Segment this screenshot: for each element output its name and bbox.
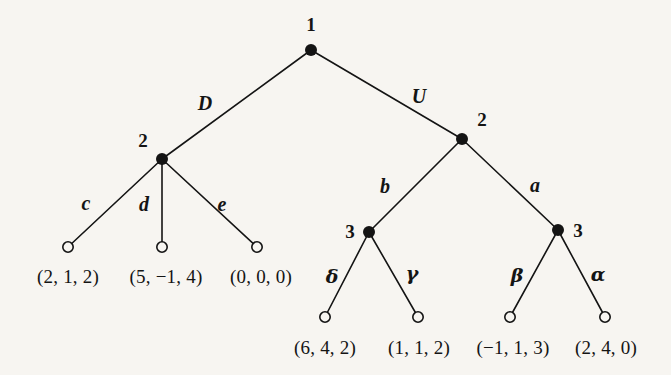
edge-e bbox=[162, 159, 257, 247]
terminal-node bbox=[320, 312, 330, 322]
player-label-left_p3: 3 bbox=[345, 222, 355, 241]
terminal-node bbox=[505, 312, 515, 322]
payoff-t_e: (0, 0, 0) bbox=[230, 267, 292, 286]
edge-c-label: c bbox=[82, 193, 91, 213]
edge-U bbox=[311, 50, 462, 139]
terminal-node bbox=[157, 242, 167, 252]
edge-D-label: D bbox=[198, 93, 212, 113]
edge-b-label: b bbox=[380, 176, 390, 196]
player-label-left_p2: 2 bbox=[138, 131, 148, 150]
decision-node-left_p3 bbox=[363, 226, 375, 238]
player-label-right_p3: 3 bbox=[573, 221, 583, 240]
edge-e-label: e bbox=[218, 194, 227, 214]
edge-alpha-label: α bbox=[591, 265, 606, 284]
edge-D bbox=[162, 50, 311, 159]
terminal-node bbox=[63, 242, 73, 252]
terminal-node bbox=[600, 312, 610, 322]
decision-node-right_p3 bbox=[552, 224, 564, 236]
edge-delta-label: δ bbox=[326, 267, 339, 286]
decision-node-left_p2 bbox=[156, 153, 168, 165]
edge-beta-label: β bbox=[511, 266, 524, 285]
decision-node-root bbox=[305, 44, 317, 56]
payoff-t_delta: (6, 4, 2) bbox=[294, 338, 356, 357]
edge-gamma-label: γ bbox=[406, 264, 419, 283]
payoff-t_gamma: (1, 1, 2) bbox=[388, 338, 450, 357]
player-label-root: 1 bbox=[306, 15, 316, 34]
decision-node-right_p2 bbox=[456, 133, 468, 145]
tree-canvas bbox=[0, 0, 671, 375]
edge-U-label: U bbox=[412, 86, 426, 106]
payoff-t_c: (2, 1, 2) bbox=[37, 267, 99, 286]
payoff-t_alpha: (2, 4, 0) bbox=[575, 338, 637, 357]
edge-d-label: d bbox=[139, 194, 149, 214]
terminal-node bbox=[252, 242, 262, 252]
payoff-t_beta: (−1, 1, 3) bbox=[477, 338, 550, 357]
payoff-t_d: (5, −1, 4) bbox=[130, 267, 203, 286]
edge-a bbox=[462, 139, 558, 230]
game-tree-figure: DUcdebaδγβα(2, 1, 2)(5, −1, 4)(0, 0, 0)(… bbox=[0, 0, 671, 375]
player-label-right_p2: 2 bbox=[477, 110, 487, 129]
edge-a-label: a bbox=[530, 175, 540, 195]
terminal-node bbox=[413, 312, 423, 322]
